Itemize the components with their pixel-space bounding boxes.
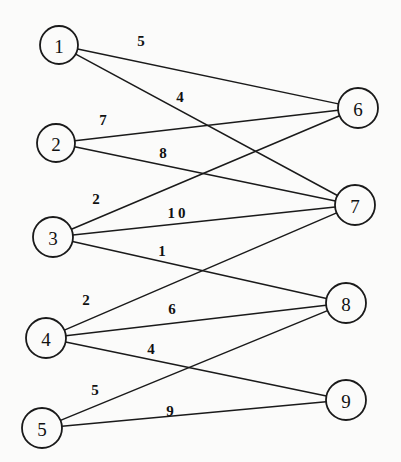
graph-canvas: 123456789 5478210126459 bbox=[0, 0, 401, 462]
edge-weight-label: 6 bbox=[168, 301, 176, 317]
nodes-layer: 123456789 bbox=[22, 26, 378, 448]
node-label: 7 bbox=[350, 196, 360, 217]
edge-weight-label: 10 bbox=[168, 205, 189, 221]
node-label: 3 bbox=[48, 228, 58, 249]
graph-node-3[interactable]: 3 bbox=[33, 217, 73, 257]
edge-labels-layer: 5478210126459 bbox=[82, 33, 188, 419]
node-label: 5 bbox=[37, 419, 47, 440]
graph-edge bbox=[66, 342, 327, 396]
edge-weight-label: 5 bbox=[137, 33, 145, 49]
node-label: 6 bbox=[353, 99, 363, 120]
graph-edge bbox=[71, 116, 339, 229]
edge-weight-label: 2 bbox=[82, 292, 90, 308]
edge-weight-label: 4 bbox=[176, 89, 184, 105]
graph-node-4[interactable]: 4 bbox=[26, 318, 66, 358]
node-label: 4 bbox=[41, 329, 51, 350]
graph-edge bbox=[73, 241, 327, 298]
edge-weight-label: 5 bbox=[91, 382, 99, 398]
graph-node-1[interactable]: 1 bbox=[40, 26, 78, 64]
node-label: 1 bbox=[54, 36, 64, 57]
edge-weight-label: 9 bbox=[166, 403, 174, 419]
graph-edge bbox=[66, 305, 326, 335]
graph-edge bbox=[64, 213, 336, 330]
graph-node-6[interactable]: 6 bbox=[338, 88, 378, 128]
graph-node-5[interactable]: 5 bbox=[22, 408, 62, 448]
edge-weight-label: 7 bbox=[99, 112, 107, 128]
graph-node-8[interactable]: 8 bbox=[326, 283, 366, 323]
node-label: 9 bbox=[341, 391, 351, 412]
node-label: 2 bbox=[51, 134, 61, 155]
edge-weight-label: 2 bbox=[92, 191, 100, 207]
edges-layer bbox=[60, 49, 339, 426]
graph-node-9[interactable]: 9 bbox=[326, 380, 366, 420]
graph-figure: 123456789 5478210126459 bbox=[0, 0, 401, 462]
graph-node-2[interactable]: 2 bbox=[37, 124, 75, 162]
graph-edge bbox=[62, 402, 326, 426]
edge-weight-label: 4 bbox=[147, 341, 155, 357]
edge-weight-label: 1 bbox=[158, 243, 166, 259]
graph-node-7[interactable]: 7 bbox=[335, 185, 375, 225]
edge-weight-label: 8 bbox=[159, 145, 167, 161]
graph-edge bbox=[60, 311, 327, 421]
graph-edge bbox=[75, 110, 338, 141]
node-label: 8 bbox=[341, 294, 351, 315]
